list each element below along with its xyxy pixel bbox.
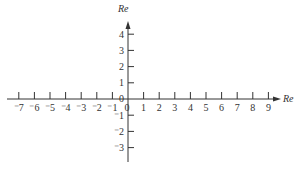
axes-svg: ⁻7⁻6⁻5⁻4⁻3⁻2⁻10123456789 43210⁻1⁻2⁻3 Re … <box>0 0 302 169</box>
x-tick-label: ⁻3 <box>76 102 86 113</box>
x-tick-label: 5 <box>204 102 209 113</box>
x-tick-label: ⁻6 <box>29 102 39 113</box>
x-tick-label: 7 <box>235 102 240 113</box>
y-tick-label: 4 <box>119 29 124 40</box>
x-tick-label: 0 <box>125 102 130 113</box>
y-tick-label: 1 <box>119 77 124 88</box>
x-tick-label: ⁻4 <box>61 102 71 113</box>
vertical-axis-ticks: 43210⁻1⁻2⁻3 <box>114 29 134 153</box>
x-tick-label: 2 <box>157 102 162 113</box>
y-tick-label: ⁻1 <box>114 110 124 121</box>
x-tick-label: 1 <box>141 102 146 113</box>
vertical-axis <box>126 21 131 162</box>
y-tick-label: ⁻2 <box>114 126 124 137</box>
x-tick-label: 6 <box>219 102 224 113</box>
x-tick-label: 9 <box>266 102 271 113</box>
x-tick-label: ⁻2 <box>92 102 102 113</box>
x-tick-label: 4 <box>188 102 193 113</box>
horizontal-axis-label: Re <box>282 93 294 104</box>
y-tick-label: 3 <box>119 45 124 56</box>
y-tick-label: 2 <box>119 61 124 72</box>
x-tick-label: 8 <box>250 102 255 113</box>
vertical-axis-label: Re <box>117 3 129 14</box>
coordinate-plane: ⁻7⁻6⁻5⁻4⁻3⁻2⁻10123456789 43210⁻1⁻2⁻3 Re … <box>0 0 302 169</box>
x-tick-label: ⁻5 <box>45 102 55 113</box>
horizontal-axis-ticks: ⁻7⁻6⁻5⁻4⁻3⁻2⁻10123456789 <box>14 92 271 113</box>
x-tick-label: 3 <box>172 102 177 113</box>
y-tick-label: ⁻3 <box>114 142 124 153</box>
x-tick-label: ⁻7 <box>14 102 24 113</box>
y-tick-label: 0 <box>119 93 124 104</box>
